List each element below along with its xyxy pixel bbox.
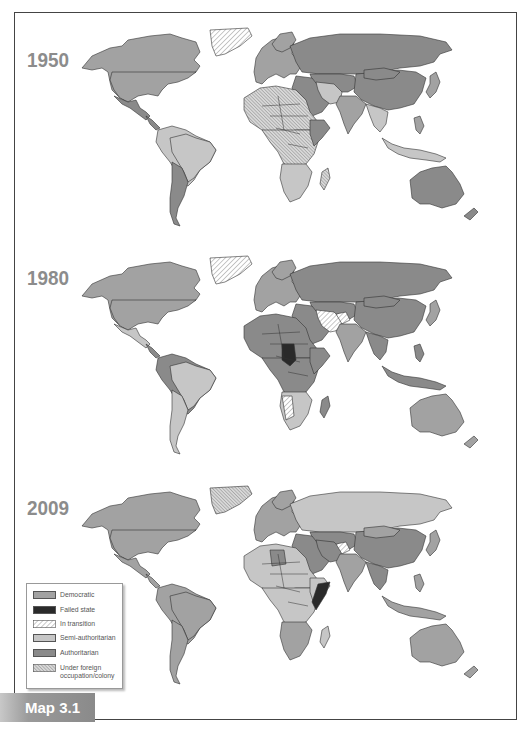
democratic-swatch-icon bbox=[33, 591, 56, 599]
authoritarian-swatch-icon bbox=[33, 649, 56, 657]
semi-authoritarian-swatch-icon bbox=[33, 634, 56, 642]
world-map-1950 bbox=[0, 12, 528, 242]
legend-label: Authoritarian bbox=[60, 649, 99, 657]
failed-state-swatch-icon bbox=[33, 606, 56, 614]
year-label-1950: 1950 bbox=[27, 48, 69, 72]
legend-item-in-transition: In transition bbox=[33, 620, 95, 628]
legend-label: Semi-authoritarian bbox=[60, 634, 116, 642]
figure-label-tab: Map 3.1 bbox=[0, 693, 95, 722]
legend-item-authoritarian: Authoritarian bbox=[33, 649, 99, 657]
legend-label: Democratic bbox=[60, 591, 94, 599]
legend-label: In transition bbox=[60, 620, 95, 628]
legend-item-failed-state: Failed state bbox=[33, 606, 95, 614]
legend-item-semi-authoritarian: Semi-authoritarian bbox=[33, 634, 116, 642]
world-map-1980 bbox=[0, 240, 528, 470]
figure-label: Map 3.1 bbox=[25, 699, 80, 716]
year-label-2009: 2009 bbox=[27, 496, 69, 520]
map-legend: Democratic Failed state In transition Se… bbox=[26, 583, 123, 689]
legend-item-democratic: Democratic bbox=[33, 591, 94, 599]
legend-label-line1: Under foreign bbox=[60, 664, 101, 671]
legend-label-line2: occupation/colony bbox=[60, 672, 114, 679]
map-panel-1950: 1950 bbox=[0, 12, 528, 242]
map-panel-1980: 1980 bbox=[0, 240, 528, 470]
legend-label: Failed state bbox=[60, 606, 95, 614]
year-label-1980: 1980 bbox=[27, 266, 69, 290]
legend-label: Under foreign occupation/colony bbox=[60, 664, 114, 680]
legend-item-foreign-occupation: Under foreign occupation/colony bbox=[33, 664, 114, 680]
in-transition-swatch-icon bbox=[33, 620, 56, 628]
foreign-occupation-swatch-icon bbox=[33, 664, 56, 672]
